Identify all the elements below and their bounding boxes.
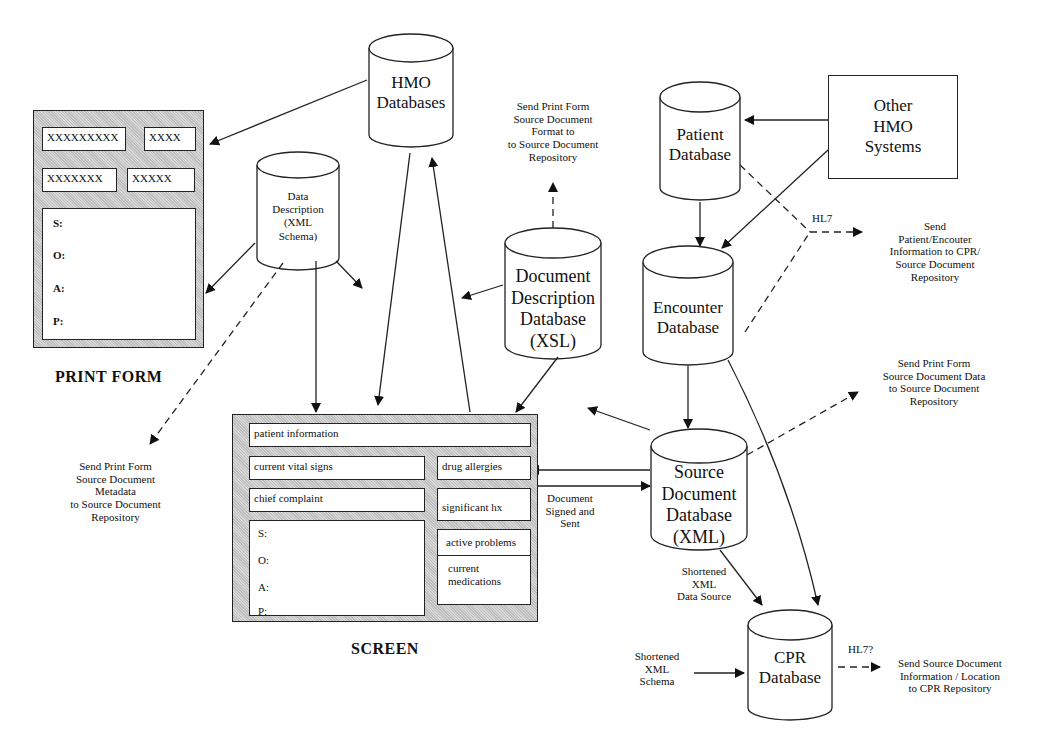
soap-o: O: <box>258 554 269 566</box>
print-form-field-1[interactable]: XXXXXXXXX <box>42 127 126 151</box>
source-document-database-label: SourceDocument Database(XML) <box>649 462 749 548</box>
annotation-shortened-schema: ShortenedXML Schema <box>622 650 692 688</box>
chief-complaint-field[interactable]: chief complaint <box>249 488 425 512</box>
data-description-label: DataDescription (XMLSchema) <box>257 190 339 243</box>
soap-s: S: <box>258 527 267 539</box>
patient-information-field[interactable]: patient information <box>249 423 531 447</box>
annotation-data-to-repository: Send Print FormSource Document Data to S… <box>864 357 1004 408</box>
print-form-field-2[interactable]: XXXX <box>144 127 196 151</box>
print-form: XXXXXXXXX XXXX XXXXXXX XXXXX S: O: A: P: <box>33 110 204 348</box>
annotation-shortened-data-source: ShortenedXML Data Source <box>664 565 744 603</box>
current-medications-field[interactable]: current medications <box>437 555 531 605</box>
screen-form: patient information current vital signs … <box>232 414 538 622</box>
print-form-caption: PRINT FORM <box>55 368 162 386</box>
soap-o: O: <box>53 249 65 261</box>
soap-notes-area[interactable]: S: O: A: P: <box>249 520 425 616</box>
patient-database-label: PatientDatabase <box>660 125 740 166</box>
print-form-soap-area[interactable]: S: O: A: P: <box>42 208 196 340</box>
soap-p: P: <box>53 315 63 327</box>
screen-caption: SCREEN <box>351 640 419 658</box>
annotation-signed-sent: DocumentSigned andSent <box>530 492 610 530</box>
current-vital-signs-field[interactable]: current vital signs <box>249 456 425 480</box>
drug-allergies-field[interactable]: drug allergies <box>437 456 531 480</box>
soap-a: A: <box>53 282 65 294</box>
soap-a: A: <box>258 581 269 593</box>
significant-hx-field[interactable]: significant hx <box>437 488 531 521</box>
annotation-cpr-repository: Send Source DocumentInformation / Locati… <box>880 657 1020 695</box>
annotation-patient-encounter: SendPatient/Encouter Information to CPR/… <box>870 220 1000 283</box>
soap-s: S: <box>53 217 63 229</box>
hmo-databases-label: HMODatabases <box>369 73 453 114</box>
encounter-database-label: EncounterDatabase <box>643 298 733 339</box>
other-hmo-systems-box: OtherHMOSystems <box>828 75 958 179</box>
annotation-format-to-repository: Send Print FormSource Document Format to… <box>488 100 618 163</box>
print-form-field-3[interactable]: XXXXXXX <box>42 168 117 192</box>
print-form-field-4[interactable]: XXXXX <box>127 168 195 192</box>
annotation-hl7: HL7 <box>812 212 832 225</box>
annotation-hl7-question: HL7? <box>848 643 873 656</box>
annotation-metadata-to-repository: Send Print FormSource Document Metadatat… <box>48 460 183 523</box>
soap-p: P: <box>258 605 267 616</box>
document-description-label: DocumentDescription Database(XSL) <box>503 266 603 352</box>
cpr-database-label: CPRDatabase <box>748 648 832 689</box>
